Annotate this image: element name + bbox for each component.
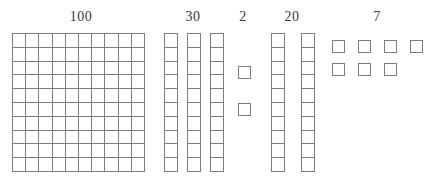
unit-cube xyxy=(238,103,251,116)
unit-cell xyxy=(26,117,39,131)
unit-cell xyxy=(79,62,92,76)
unit-cell xyxy=(165,34,178,48)
unit-cell xyxy=(132,117,145,131)
unit-cell xyxy=(188,144,201,158)
unit-cell xyxy=(53,75,66,89)
group-label-ones-seven: 7 xyxy=(347,10,407,24)
unit-cell xyxy=(92,144,105,158)
unit-cell xyxy=(53,131,66,145)
unit-cell xyxy=(302,144,315,158)
unit-cell xyxy=(66,48,79,62)
unit-cell xyxy=(92,34,105,48)
unit-cell xyxy=(302,62,315,76)
unit-cell xyxy=(302,131,315,145)
unit-cell xyxy=(119,48,132,62)
unit-cell xyxy=(211,158,224,172)
unit-cell xyxy=(66,89,79,103)
unit-cell xyxy=(66,75,79,89)
unit-cell xyxy=(105,144,118,158)
unit-cell xyxy=(165,62,178,76)
unit-cell xyxy=(165,117,178,131)
unit-cell xyxy=(105,103,118,117)
group-label-tens-twenty: 20 xyxy=(262,10,322,24)
unit-cell xyxy=(119,75,132,89)
unit-cell xyxy=(79,34,92,48)
unit-cell xyxy=(119,144,132,158)
hundred-flat xyxy=(12,33,145,172)
unit-cell xyxy=(26,34,39,48)
unit-cell xyxy=(26,48,39,62)
unit-cell xyxy=(66,131,79,145)
unit-cell xyxy=(105,89,118,103)
unit-cell xyxy=(92,62,105,76)
unit-cell xyxy=(79,144,92,158)
unit-cell xyxy=(165,158,178,172)
unit-cell xyxy=(132,75,145,89)
unit-cell xyxy=(302,89,315,103)
unit-cell xyxy=(132,131,145,145)
unit-cell xyxy=(13,131,26,145)
unit-cell xyxy=(188,62,201,76)
group-label-hundreds: 100 xyxy=(51,10,111,24)
unit-cell xyxy=(39,34,52,48)
unit-cube xyxy=(332,63,345,76)
unit-cell xyxy=(26,144,39,158)
unit-cell xyxy=(272,144,285,158)
unit-cell xyxy=(26,103,39,117)
unit-cell xyxy=(26,89,39,103)
unit-cell xyxy=(211,75,224,89)
unit-cell xyxy=(211,103,224,117)
unit-cell xyxy=(39,75,52,89)
unit-cell xyxy=(79,158,92,172)
unit-cell xyxy=(53,103,66,117)
ten-rod xyxy=(271,33,285,172)
unit-cell xyxy=(39,89,52,103)
unit-cell xyxy=(211,34,224,48)
unit-cell xyxy=(79,117,92,131)
unit-cell xyxy=(79,103,92,117)
unit-cell xyxy=(39,62,52,76)
unit-cell xyxy=(53,117,66,131)
unit-cell xyxy=(39,48,52,62)
unit-cell xyxy=(272,48,285,62)
unit-cell xyxy=(13,117,26,131)
unit-cell xyxy=(66,158,79,172)
unit-cell xyxy=(188,131,201,145)
base-ten-blocks-diagram: 100302207 xyxy=(0,0,441,190)
unit-cell xyxy=(66,117,79,131)
unit-cell xyxy=(79,89,92,103)
unit-cube xyxy=(410,40,423,53)
unit-cell xyxy=(39,117,52,131)
unit-cell xyxy=(105,34,118,48)
unit-cell xyxy=(211,62,224,76)
unit-cell xyxy=(13,48,26,62)
unit-cube xyxy=(238,66,251,79)
unit-cell xyxy=(132,48,145,62)
unit-cell xyxy=(132,144,145,158)
unit-cell xyxy=(13,34,26,48)
unit-cell xyxy=(92,158,105,172)
unit-cell xyxy=(79,75,92,89)
unit-cell xyxy=(39,144,52,158)
unit-cell xyxy=(302,117,315,131)
unit-cell xyxy=(79,48,92,62)
unit-cell xyxy=(119,131,132,145)
unit-cell xyxy=(105,48,118,62)
unit-cell xyxy=(26,158,39,172)
unit-cell xyxy=(272,131,285,145)
unit-cell xyxy=(92,89,105,103)
unit-cell xyxy=(302,48,315,62)
unit-cell xyxy=(132,103,145,117)
unit-cell xyxy=(132,34,145,48)
unit-cell xyxy=(53,62,66,76)
unit-cube xyxy=(332,40,345,53)
unit-cell xyxy=(92,75,105,89)
unit-cell xyxy=(302,158,315,172)
unit-cell xyxy=(211,144,224,158)
unit-cell xyxy=(132,89,145,103)
unit-cell xyxy=(211,48,224,62)
unit-cell xyxy=(188,34,201,48)
unit-cell xyxy=(188,89,201,103)
unit-cell xyxy=(105,117,118,131)
unit-cell xyxy=(13,89,26,103)
